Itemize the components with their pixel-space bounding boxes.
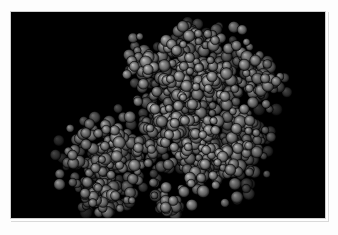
molecular-render-viewport[interactable] xyxy=(10,11,326,219)
viewport-background xyxy=(11,12,325,218)
molecule-spacefilling-model xyxy=(11,12,325,218)
figure-root: Space-filling molecular structure space-… xyxy=(0,0,338,235)
